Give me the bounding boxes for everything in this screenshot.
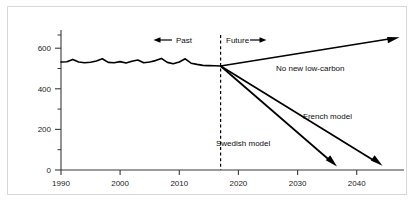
y-tick-label-600: 600 <box>38 44 52 53</box>
x-tick-label-2030: 2030 <box>289 179 307 188</box>
x-tick-label-2040: 2040 <box>348 179 366 188</box>
x-tick-label-1990: 1990 <box>52 179 70 188</box>
arrowhead-french-model <box>371 155 383 166</box>
projection-french-model <box>221 66 383 166</box>
energy-projection-chart: 0 200 400 600 1990 2000 2010 2020 2030 2… <box>0 0 414 208</box>
historical-series-line <box>61 58 221 66</box>
x-axis-ticks <box>61 170 357 175</box>
past-annotation: Past <box>154 36 193 45</box>
y-axis-ticks <box>55 35 61 170</box>
past-label: Past <box>176 36 193 45</box>
figure-container: 0 200 400 600 1990 2000 2010 2020 2030 2… <box>0 0 414 208</box>
x-tick-label-2020: 2020 <box>230 179 248 188</box>
y-tick-label-0: 0 <box>47 166 52 175</box>
label-no-new-low-carbon: No new low-carbon <box>276 64 344 73</box>
arrowhead-no-new-low-carbon <box>387 37 400 43</box>
future-annotation: Future <box>226 36 267 45</box>
y-tick-label-400: 400 <box>38 85 52 94</box>
label-french-model: French model <box>303 112 352 121</box>
arrowhead-swedish-model <box>326 155 337 166</box>
label-swedish-model: Swedish model <box>216 139 270 148</box>
x-tick-label-2010: 2010 <box>170 179 188 188</box>
y-tick-label-200: 200 <box>38 125 52 134</box>
x-tick-label-2000: 2000 <box>111 179 129 188</box>
future-label: Future <box>226 36 250 45</box>
